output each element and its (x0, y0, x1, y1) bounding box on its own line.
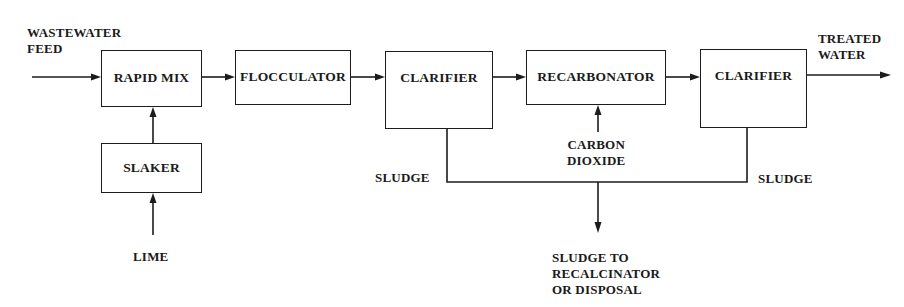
arrow-clarifier-2-to-treated-water (807, 72, 891, 79)
carbon-dioxide-line-1: CARBON (567, 137, 625, 153)
wastewater-feed-line-1: WASTEWATER (27, 25, 121, 41)
rapid-mix-box: RAPID MIX (101, 50, 202, 107)
sludge-out-line-3: OR DISPOSAL (552, 282, 660, 298)
arrow-slaker-to-rapid-mix (150, 107, 157, 143)
arrow-recarbonator-to-clarifier-2 (666, 74, 700, 81)
clarifier-2-box: CLARIFIER (700, 49, 807, 128)
rapid-mix-label: RAPID MIX (102, 70, 201, 86)
sludge-out-line-1: SLUDGE TO (552, 250, 660, 266)
carbon-dioxide-line-2: DIOXIDE (567, 153, 625, 169)
clarifier-2-label: CLARIFIER (701, 68, 806, 84)
sludge-right-label: SLUDGE (758, 171, 813, 187)
lime-label: LIME (133, 249, 168, 265)
arrow-rapid-mix-to-flocculator (202, 74, 235, 81)
flocculator-label: FLOCCULATOR (236, 69, 350, 85)
sludge-out-line-2: RECALCINATOR (552, 266, 660, 282)
clarifier-1-box: CLARIFIER (385, 51, 493, 129)
arrow-flocculator-to-clarifier-1 (351, 74, 385, 81)
wastewater-feed-label: WASTEWATER FEED (27, 25, 121, 57)
carbon-dioxide-label: CARBON DIOXIDE (567, 137, 625, 169)
recarbonator-box: RECARBONATOR (526, 50, 666, 105)
sludge-left-label: SLUDGE (375, 170, 430, 186)
slaker-box: SLAKER (101, 143, 202, 193)
arrow-feed-to-rapid-mix (32, 74, 101, 81)
treated-water-line-2: WATER (818, 47, 881, 63)
process-flow-diagram: RAPID MIX FLOCCULATOR CLARIFIER RECARBON… (0, 0, 904, 307)
sludge-out-label: SLUDGE TO RECALCINATOR OR DISPOSAL (552, 250, 660, 298)
arrow-sludge-out (595, 182, 602, 233)
arrow-lime-to-slaker (150, 193, 157, 235)
slaker-label: SLAKER (102, 160, 201, 176)
clarifier-1-label: CLARIFIER (386, 70, 492, 86)
arrow-co2-to-recarbonator (595, 105, 602, 132)
treated-water-line-1: TREATED (818, 31, 881, 47)
arrow-clarifier-1-to-recarbonator (493, 74, 526, 81)
wastewater-feed-line-2: FEED (27, 41, 121, 57)
recarbonator-label: RECARBONATOR (527, 69, 665, 85)
flocculator-box: FLOCCULATOR (235, 50, 351, 105)
treated-water-label: TREATED WATER (818, 31, 881, 63)
